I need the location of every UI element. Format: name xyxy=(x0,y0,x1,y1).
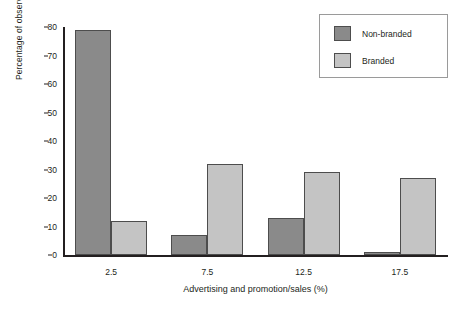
y-tick-mark xyxy=(44,169,48,170)
legend-label-non-branded: Non-branded xyxy=(362,29,412,39)
y-tick-label: 0 xyxy=(52,250,63,260)
y-tick-mark xyxy=(44,112,48,113)
y-tick-mark xyxy=(44,27,48,28)
chart-legend: Non-branded Branded xyxy=(319,14,448,78)
x-tick-label: 2.5 xyxy=(105,267,117,277)
y-tick-mark xyxy=(44,55,48,56)
y-tick-label: 60 xyxy=(48,79,63,89)
legend-label-branded: Branded xyxy=(362,56,394,66)
y-tick-mark xyxy=(44,226,48,227)
legend-item-branded: Branded xyxy=(334,53,394,68)
y-tick-label: 20 xyxy=(48,193,63,203)
x-axis-title: Advertising and promotion/sales (%) xyxy=(63,284,448,294)
y-tick-label: 30 xyxy=(48,165,63,175)
x-tick-label: 7.5 xyxy=(201,267,213,277)
legend-item-non-branded: Non-branded xyxy=(334,26,412,41)
bar-non-branded-12.5 xyxy=(268,218,304,255)
bar-branded-2.5 xyxy=(111,221,147,255)
bar-non-branded-7.5 xyxy=(171,235,207,255)
y-tick-label: 80 xyxy=(48,22,63,32)
bar-branded-17.5 xyxy=(400,178,436,255)
y-tick-mark xyxy=(48,255,52,256)
y-tick-label: 40 xyxy=(48,136,63,146)
legend-swatch-branded xyxy=(334,53,351,68)
bar-branded-7.5 xyxy=(207,164,243,255)
legend-swatch-non-branded xyxy=(334,26,351,41)
x-tick-label: 17.5 xyxy=(392,267,409,277)
bar-chart-figure: Percentage of observations 0102030405060… xyxy=(0,0,462,310)
y-tick-mark xyxy=(44,84,48,85)
y-tick-mark xyxy=(44,141,48,142)
y-tick-label: 70 xyxy=(48,51,63,61)
y-axis-title: Percentage of observations xyxy=(14,0,24,80)
bar-non-branded-17.5 xyxy=(364,252,400,255)
y-tick-label: 10 xyxy=(48,222,63,232)
bar-non-branded-2.5 xyxy=(75,30,111,255)
y-axis-line xyxy=(63,27,65,255)
y-tick-label: 50 xyxy=(48,108,63,118)
bar-branded-12.5 xyxy=(304,172,340,255)
x-axis-line xyxy=(63,255,448,257)
y-tick-mark xyxy=(44,198,48,199)
x-tick-label: 12.5 xyxy=(295,267,312,277)
